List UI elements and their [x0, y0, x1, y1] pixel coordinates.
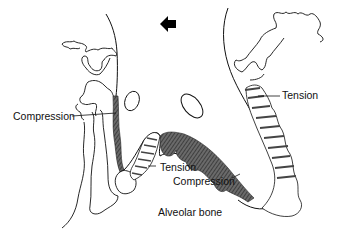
tension-label-bottom: Tension — [160, 162, 196, 173]
compression-label-bottom: Compression — [173, 176, 235, 187]
compression-label-left: Compression — [13, 111, 75, 122]
alveolar-bone-label: Alveolar bone — [158, 207, 222, 218]
compression-zone-left — [113, 96, 124, 172]
gingiva-left — [62, 41, 117, 120]
gingiva-right — [234, 12, 323, 80]
tooth-movement-diagram: Compression Tension Tension Compression … — [0, 0, 338, 234]
tension-label-right: Tension — [282, 90, 318, 101]
tension-zone-right — [245, 85, 302, 217]
arrow-left-icon — [160, 16, 176, 32]
